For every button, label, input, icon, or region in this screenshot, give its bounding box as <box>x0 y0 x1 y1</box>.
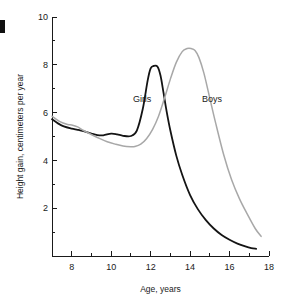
chart-svg: 246810 81012141618 Girls Boys Age, years… <box>0 0 285 302</box>
chart-background <box>0 0 285 302</box>
series-label-boys: Boys <box>202 94 223 104</box>
y-tick-label: 6 <box>43 108 48 118</box>
series-label-girls: Girls <box>133 94 152 104</box>
x-tick-label: 12 <box>146 262 156 272</box>
x-tick-label: 14 <box>185 262 195 272</box>
y-tick-label: 2 <box>43 203 48 213</box>
y-axis-title: Height gain, centimeters per year <box>15 74 25 199</box>
y-tick-label: 8 <box>43 60 48 70</box>
y-tick-label: 10 <box>38 12 48 22</box>
page-edge-artifact <box>0 20 5 33</box>
growth-velocity-chart: 246810 81012141618 Girls Boys Age, years… <box>0 0 285 302</box>
x-axis-title: Age, years <box>140 284 181 294</box>
x-tick-label: 16 <box>225 262 235 272</box>
x-tick-label: 18 <box>264 262 274 272</box>
x-tick-label: 8 <box>69 262 74 272</box>
x-tick-label: 10 <box>106 262 116 272</box>
y-tick-label: 4 <box>43 156 48 166</box>
